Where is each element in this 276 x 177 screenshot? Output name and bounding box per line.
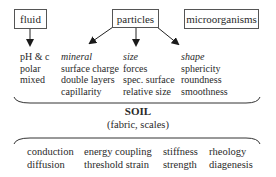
mineral-heading: mineral: [61, 51, 119, 63]
property-item: rheology: [209, 146, 253, 159]
property-item: strength: [163, 159, 198, 172]
fluid-item: pH & c: [20, 51, 49, 63]
fluid-label: fluid: [20, 13, 41, 25]
property-group: rheology diagenesis: [209, 146, 253, 171]
particles-label: particles: [117, 13, 154, 25]
upper-brace-curve: [14, 97, 260, 103]
arrow-particles-shape: [157, 27, 178, 44]
mineral-column: mineral surface charge double layers cap…: [61, 51, 119, 97]
property-group: energy coupling threshold strain: [84, 146, 152, 171]
shape-item: roundness: [181, 74, 228, 86]
size-item: spec. surface: [123, 74, 175, 86]
property-item: threshold strain: [84, 159, 152, 172]
microorganisms-label: microorganisms: [186, 13, 257, 25]
shape-heading: shape: [181, 51, 228, 63]
property-item: stiffness: [163, 146, 198, 159]
shape-column: shape sphericity roundness smoothness: [181, 51, 228, 97]
property-group: stiffness strength: [163, 146, 198, 171]
shape-item: smoothness: [181, 86, 228, 98]
mineral-item: capillarity: [61, 86, 119, 98]
lower-brace-curve: [14, 138, 260, 144]
size-item: forces: [123, 63, 175, 75]
arrow-particles-mineral: [90, 27, 113, 43]
size-column: size forces spec. surface relative size: [123, 51, 175, 97]
property-group: conduction diffusion: [27, 146, 74, 171]
size-heading: size: [123, 51, 175, 63]
mineral-item: surface charge: [61, 63, 119, 75]
fluid-box: fluid: [14, 9, 47, 29]
fluid-column: pH & c polar mixed: [20, 51, 49, 86]
soil-subtitle: (fabric, scales): [0, 119, 276, 130]
property-item: diagenesis: [209, 159, 253, 172]
mineral-item: double layers: [61, 74, 119, 86]
size-item: relative size: [123, 86, 175, 98]
property-item: conduction: [27, 146, 74, 159]
property-item: energy coupling: [84, 146, 152, 159]
soil-title: SOIL: [0, 105, 276, 117]
fluid-item: mixed: [20, 74, 49, 86]
fluid-item: polar: [20, 63, 49, 75]
property-item: diffusion: [27, 159, 74, 172]
microorganisms-box: microorganisms: [184, 9, 259, 29]
shape-item: sphericity: [181, 63, 228, 75]
particles-box: particles: [112, 9, 159, 28]
